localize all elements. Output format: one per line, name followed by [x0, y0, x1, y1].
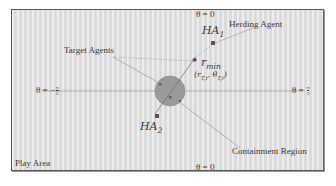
herding-agent-label: Herding Agent [229, 20, 282, 29]
target-agent-leader-2 [113, 57, 161, 84]
theta-bottom-label: θ = 0 [196, 163, 214, 172]
ha2-label: HA2 [140, 121, 162, 135]
target-coordinate-label: (rT,i, θT,i) [194, 71, 227, 81]
play-area-label: Play Area [15, 159, 50, 168]
herding-agent-1-marker [211, 41, 215, 45]
containment-region-leader [178, 101, 240, 148]
target-agent-leader-1 [113, 57, 193, 61]
fraction: π2 [307, 85, 310, 96]
theta-right-label: θ = π2 [292, 85, 309, 96]
ha1-label: HA1 [202, 25, 224, 39]
containment-region-label: Containment Region [232, 147, 307, 156]
target-agents-label: Target Agents [64, 46, 114, 55]
theta-top-label: θ = 0 [196, 10, 214, 19]
theta-left-label: θ = −π2 [36, 85, 59, 96]
target-agent-outer-marker [192, 57, 197, 62]
diagram-stage: θ = 0 θ = 0 θ = −π2 θ = π2 HA1 HA2 Herdi… [0, 0, 336, 186]
target-agent-inner-3 [179, 100, 181, 102]
target-agent-inner-1 [159, 83, 162, 86]
target-agent-inner-2 [169, 96, 172, 99]
fraction: π2 [56, 85, 59, 96]
herding-agent-2-marker [155, 114, 159, 118]
r-min-label: rmin [201, 57, 221, 71]
